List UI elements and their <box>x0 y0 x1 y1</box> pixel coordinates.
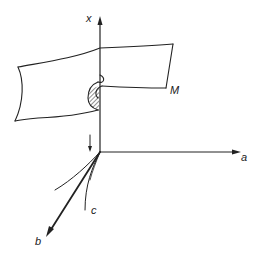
b-axis-label: b <box>35 235 41 247</box>
fold-surface-diagram: x a b c M <box>0 0 262 261</box>
a-axis-arrowhead-icon <box>232 150 241 155</box>
down-arrow <box>88 135 92 152</box>
x-axis-label: x <box>85 12 92 24</box>
surface-m <box>15 44 173 121</box>
a-axis-label: a <box>241 151 247 163</box>
down-arrowhead-icon <box>88 146 92 152</box>
curve-c <box>85 152 100 210</box>
curve-c-label: c <box>91 204 97 216</box>
x-axis: x <box>85 12 103 152</box>
surface-m-label: M <box>170 84 180 96</box>
x-axis-arrowhead-icon <box>98 16 103 25</box>
a-axis: a <box>100 150 247 164</box>
b-axis: b <box>35 152 100 247</box>
curve-2 <box>55 152 100 190</box>
